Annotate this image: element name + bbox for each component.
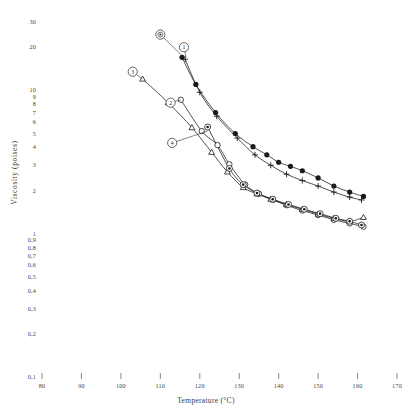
annotation-badge-text: 3	[131, 69, 134, 75]
annotation-badge-4: 4	[168, 138, 177, 147]
data-point-filled-circle	[331, 183, 336, 188]
x-tick-label: 170	[377, 382, 412, 389]
annotation-badges: 1234	[128, 30, 188, 148]
x-tick-label: 90	[61, 382, 101, 389]
y-tick-label: 0,9	[4, 236, 36, 243]
y-tick-label: 30	[4, 18, 36, 25]
data-point-triangle	[140, 76, 146, 81]
annotation-badge-text: 4	[171, 140, 174, 146]
x-tick-label: 120	[180, 382, 220, 389]
y-tick-label: 0,1	[4, 373, 36, 380]
x-tick-label: 110	[140, 382, 180, 389]
data-point-filled-circle	[250, 144, 255, 149]
data-point-filled-circle	[347, 190, 352, 195]
series-line	[143, 79, 364, 221]
data-point-circled-dot	[205, 124, 211, 130]
y-tick-label: 7	[4, 109, 36, 116]
y-tick-label: 6	[4, 118, 36, 125]
data-point-triangle	[361, 214, 367, 219]
y-tick-label: 9	[4, 93, 36, 100]
data-point-plus	[268, 162, 274, 168]
y-tick-label: 0,5	[4, 273, 36, 280]
chart-figure: 1234 Viscosity (poises) Temperature (°C)…	[0, 0, 412, 412]
data-point-filled-circle	[288, 164, 293, 169]
annotation-badge-text: 2	[169, 100, 172, 106]
data-point-open-circle	[215, 142, 220, 147]
data-point-plus	[284, 171, 290, 177]
data-point-circled-dot	[333, 215, 339, 221]
data-point-circled-dot	[317, 211, 323, 217]
data-point-circled-dot	[359, 222, 365, 228]
data-point-plus	[299, 178, 305, 184]
x-tick-label: 80	[22, 382, 62, 389]
y-tick-label: 0,8	[4, 244, 36, 251]
y-tick-label: 0,6	[4, 261, 36, 268]
data-point-filled-circle	[213, 110, 218, 115]
y-tick-label: 4	[4, 143, 36, 150]
y-tick-label: 0,2	[4, 330, 36, 337]
data-point-circled-dot	[226, 166, 232, 172]
annotation-badge-circled-marker	[156, 30, 165, 39]
data-point-circled-dot	[301, 206, 307, 212]
data-point-filled-circle	[316, 175, 321, 180]
annotation-leader-line	[172, 131, 208, 143]
annotation-leaders	[133, 35, 208, 143]
data-point-plus	[331, 189, 337, 195]
data-point-circled-dot	[347, 218, 353, 224]
y-tick-label: 0,7	[4, 252, 36, 259]
annotation-badge-1: 1	[179, 43, 188, 52]
y-tick-label: 3	[4, 161, 36, 168]
x-axis-title: Temperature (°C)	[0, 396, 412, 405]
data-point-plus	[315, 183, 321, 189]
x-tick-label: 160	[338, 382, 378, 389]
y-tick-label: 20	[4, 43, 36, 50]
x-tick-label: 100	[101, 382, 141, 389]
data-point-circled-dot	[286, 201, 292, 207]
y-tick-label: 5	[4, 130, 36, 137]
x-tick-label: 130	[219, 382, 259, 389]
data-point-circled-dot	[254, 190, 260, 196]
data-point-circled-dot	[270, 196, 276, 202]
annotation-badge-2: 2	[166, 98, 175, 107]
plot-canvas: 1234	[0, 0, 412, 412]
annotation-badge-text: 1	[183, 44, 186, 50]
x-tick-label: 150	[298, 382, 338, 389]
series-line	[185, 59, 361, 200]
series-line	[181, 100, 364, 227]
y-tick-label: 2	[4, 187, 36, 194]
data-point-filled-circle	[193, 82, 198, 87]
data-point-filled-circle	[264, 152, 269, 157]
data-point-plus	[347, 194, 353, 200]
y-tick-label: 8	[4, 100, 36, 107]
y-tick-label: 0,4	[4, 287, 36, 294]
data-point-circled-dot	[240, 182, 246, 188]
annotation-badge-3: 3	[128, 67, 137, 76]
y-tick-label: 0,3	[4, 305, 36, 312]
data-point-filled-circle	[276, 160, 281, 165]
data-point-filled-circle	[300, 168, 305, 173]
tick-marks	[42, 373, 397, 379]
x-tick-label: 140	[259, 382, 299, 389]
